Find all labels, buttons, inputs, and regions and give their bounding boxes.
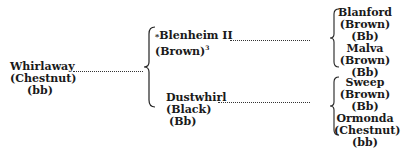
dam-dotted-leader: [218, 102, 310, 103]
parents-brace-icon: [142, 26, 156, 108]
grandsire-sweep: Sweep (Brown) (Bb): [336, 77, 394, 113]
granddam-malva: Malva (Brown) (Bb): [336, 43, 394, 79]
subject-whirlaway: Whirlaway (Chestnut) (bb): [10, 61, 70, 97]
grandsire-blanford: Blanford (Brown) (Bb): [336, 7, 394, 43]
dam-dustwhirl: Dustwhirl (Black) (Bb): [166, 92, 226, 128]
subject-genotype: (bb): [10, 85, 70, 97]
sire-name: Blenheim II: [159, 29, 232, 42]
sire-dotted-leader: [230, 40, 310, 41]
sire-blenheim: *Blenheim II (Brown)3: [155, 30, 233, 58]
sire-footnote: 3: [205, 44, 209, 51]
granddam-ormonda: Ormonda (Chestnut) (bb): [334, 113, 396, 149]
dam-genotype: (Bb): [166, 116, 226, 128]
sire-color: (Brown): [155, 45, 205, 58]
granddam-ormonda-genotype: (bb): [334, 137, 396, 149]
subject-dotted-leader: [73, 71, 143, 72]
